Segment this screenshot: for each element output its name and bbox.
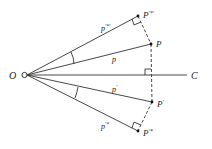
label-o: O bbox=[9, 70, 16, 81]
ray-o-to-p bbox=[27, 44, 151, 75]
dashed-p-prime-star-prime-to-p bbox=[138, 16, 151, 44]
label-segment-p-prime-star: p′* bbox=[100, 121, 109, 131]
right-angle-marker-axis bbox=[145, 69, 151, 75]
label-point-p-prime-star-prime: P′*′ bbox=[142, 10, 155, 20]
angle-arc-upper bbox=[71, 52, 74, 64]
label-segment-p: p bbox=[111, 55, 116, 64]
label-c: C bbox=[191, 70, 198, 81]
right-angle-marker-top bbox=[132, 19, 141, 25]
angle-arc-lower bbox=[75, 87, 78, 98]
point-p-prime-star bbox=[137, 130, 140, 133]
dashed-p-prime-to-p-prime-star bbox=[138, 102, 152, 131]
label-point-p-prime: P′ bbox=[156, 99, 165, 109]
ray-o-to-p-prime bbox=[27, 75, 152, 102]
label-point-p-prime-star: P′* bbox=[142, 128, 153, 138]
label-segment-p-prime: p′ bbox=[111, 84, 118, 94]
ray-o-to-p-prime-star-prime bbox=[27, 16, 138, 75]
ray-o-to-p-prime-star bbox=[27, 75, 138, 131]
dashed-p-to-p-prime bbox=[151, 44, 152, 102]
point-p-prime bbox=[151, 101, 154, 104]
point-p bbox=[150, 43, 153, 46]
origin-point-o bbox=[22, 72, 27, 77]
label-point-p: P bbox=[155, 39, 162, 49]
point-p-prime-star-prime bbox=[137, 15, 140, 18]
diagram-canvas: O C P′*′ P P′ P′* p′*′ p p′ p′* bbox=[0, 0, 212, 149]
